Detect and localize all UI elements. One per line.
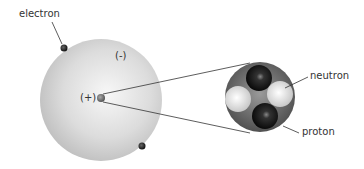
neutron-label: neutron xyxy=(310,71,349,81)
positive-charge-label: (+) xyxy=(80,93,96,103)
electron-leader-line xyxy=(52,22,62,44)
nucleus-icon xyxy=(97,94,105,102)
proton-leader-line xyxy=(283,126,299,133)
neutron-particle xyxy=(267,81,293,107)
negative-charge-label: (-) xyxy=(115,51,126,61)
proton-label: proton xyxy=(302,127,335,137)
neutron-particle xyxy=(225,86,251,112)
electron-icon xyxy=(139,143,146,150)
proton-particle xyxy=(252,103,278,129)
proton-particle xyxy=(246,65,272,91)
electron-label: electron xyxy=(19,9,60,19)
electron-icon xyxy=(61,45,68,52)
atom-diagram xyxy=(0,0,364,169)
